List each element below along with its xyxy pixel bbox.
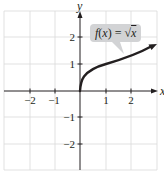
function-label: f(x) = √x — [90, 24, 141, 42]
y-tick-label: 1 — [70, 58, 76, 70]
x-tick-label: 2 — [128, 94, 134, 106]
function-eq: = √ — [112, 26, 131, 40]
x-axis-label: x — [159, 84, 164, 98]
y-tick-label: −1 — [63, 111, 75, 123]
y-axis-label: y — [76, 0, 83, 13]
x-tick-label: 1 — [103, 94, 109, 106]
x-axis: −2 −1 1 2 x — [4, 84, 164, 106]
function-arg: x — [131, 26, 136, 40]
label-pointer — [112, 42, 124, 54]
y-tick-label: 2 — [70, 31, 76, 43]
x-tick-label: −1 — [48, 94, 60, 106]
x-tick-label: −2 — [24, 94, 36, 106]
y-tick-label: −2 — [63, 138, 75, 150]
sqrt-curve — [80, 46, 152, 91]
